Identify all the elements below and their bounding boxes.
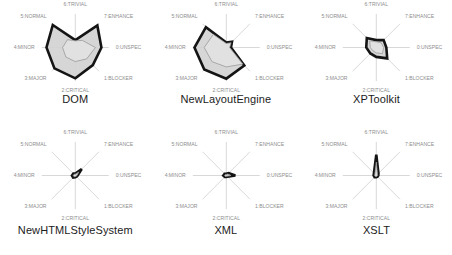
radar-panel-newlayoutengine: 0:UNSPEC1:BLOCKER2:CRITICAL3:MAJOR4:MINO…	[151, 0, 302, 128]
axis-label-3: 3:MAJOR	[175, 202, 197, 208]
axis-label-2: 2:CRITICAL	[62, 87, 90, 93]
axis-label-3: 3:MAJOR	[326, 202, 348, 208]
axis-label-0: 0:UNSPEC	[417, 44, 443, 50]
axis-label-3: 3:MAJOR	[175, 75, 197, 81]
axis-label-7: 7:ENHANCE	[255, 13, 285, 19]
axis-line-3	[202, 175, 226, 199]
axis-label-0: 0:UNSPEC	[116, 172, 142, 178]
axis-line-7	[226, 151, 250, 175]
axis-label-4: 4:MINOR	[164, 44, 185, 50]
axis-line-1	[226, 175, 250, 199]
axis-label-4: 4:MINOR	[14, 44, 35, 50]
axis-line-1	[75, 175, 99, 199]
axis-label-4: 4:MINOR	[14, 172, 35, 178]
axis-line-3	[353, 175, 377, 199]
axis-label-0: 0:UNSPEC	[266, 44, 292, 50]
radar-panel-xptoolkit: 0:UNSPEC1:BLOCKER2:CRITICAL3:MAJOR4:MINO…	[301, 0, 452, 128]
axis-label-3: 3:MAJOR	[326, 75, 348, 81]
axis-label-2: 2:CRITICAL	[212, 214, 240, 220]
axis-line-5	[52, 151, 76, 175]
axis-label-6: 6:TRIVIAL	[214, 1, 238, 7]
axis-label-5: 5:NORMAL	[322, 140, 348, 146]
radar-plot: 0:UNSPEC1:BLOCKER2:CRITICAL3:MAJOR4:MINO…	[301, 0, 452, 128]
axis-label-0: 0:UNSPEC	[266, 172, 292, 178]
radar-plot: 0:UNSPEC1:BLOCKER2:CRITICAL3:MAJOR4:MINO…	[151, 0, 302, 128]
axis-label-6: 6:TRIVIAL	[365, 129, 389, 135]
axis-line-1	[376, 175, 400, 199]
axis-line-7	[376, 151, 400, 175]
axis-label-3: 3:MAJOR	[25, 75, 47, 81]
radar-chart-grid: 0:UNSPEC1:BLOCKER2:CRITICAL3:MAJOR4:MINO…	[0, 0, 452, 255]
axis-label-7: 7:ENHANCE	[255, 140, 285, 146]
axis-label-7: 7:ENHANCE	[405, 140, 435, 146]
radar-plot: 0:UNSPEC1:BLOCKER2:CRITICAL3:MAJOR4:MINO…	[0, 128, 151, 255]
axis-label-2: 2:CRITICAL	[363, 87, 391, 93]
radar-plot: 0:UNSPEC1:BLOCKER2:CRITICAL3:MAJOR4:MINO…	[301, 128, 452, 255]
axis-label-0: 0:UNSPEC	[116, 44, 142, 50]
axis-label-5: 5:NORMAL	[171, 140, 197, 146]
radar-panel-dom: 0:UNSPEC1:BLOCKER2:CRITICAL3:MAJOR4:MINO…	[0, 0, 151, 128]
panel-title: XML	[151, 224, 302, 236]
radar-panel-xslt: 0:UNSPEC1:BLOCKER2:CRITICAL3:MAJOR4:MINO…	[301, 128, 452, 255]
axis-label-3: 3:MAJOR	[25, 202, 47, 208]
axis-label-5: 5:NORMAL	[21, 13, 47, 19]
axis-label-1: 1:BLOCKER	[104, 75, 133, 81]
axis-label-4: 4:MINOR	[315, 172, 336, 178]
axis-label-4: 4:MINOR	[164, 172, 185, 178]
axis-label-5: 5:NORMAL	[171, 13, 197, 19]
axis-label-6: 6:TRIVIAL	[64, 129, 88, 135]
axis-label-0: 0:UNSPEC	[417, 172, 443, 178]
axis-label-6: 6:TRIVIAL	[64, 1, 88, 7]
axis-line-3	[52, 175, 76, 199]
panel-title: XSLT	[301, 224, 452, 236]
axis-label-6: 6:TRIVIAL	[214, 129, 238, 135]
axis-label-1: 1:BLOCKER	[255, 75, 284, 81]
panel-title: XPToolkit	[301, 93, 452, 105]
panel-title: NewLayoutEngine	[151, 93, 302, 105]
radar-plot: 0:UNSPEC1:BLOCKER2:CRITICAL3:MAJOR4:MINO…	[151, 128, 302, 255]
panel-title: NewHTMLStyleSystem	[0, 224, 151, 236]
axis-label-1: 1:BLOCKER	[405, 202, 434, 208]
radar-panel-newhtmlstylesystem: 0:UNSPEC1:BLOCKER2:CRITICAL3:MAJOR4:MINO…	[0, 128, 151, 255]
panel-title: DOM	[0, 93, 151, 105]
axis-label-1: 1:BLOCKER	[405, 75, 434, 81]
axis-label-6: 6:TRIVIAL	[365, 1, 389, 7]
axis-line-5	[353, 151, 377, 175]
axis-label-7: 7:ENHANCE	[104, 13, 134, 19]
axis-label-1: 1:BLOCKER	[255, 202, 284, 208]
axis-label-4: 4:MINOR	[315, 44, 336, 50]
axis-label-5: 5:NORMAL	[322, 13, 348, 19]
axis-label-7: 7:ENHANCE	[405, 13, 435, 19]
axis-label-2: 2:CRITICAL	[62, 214, 90, 220]
axis-label-2: 2:CRITICAL	[363, 214, 391, 220]
radar-plot: 0:UNSPEC1:BLOCKER2:CRITICAL3:MAJOR4:MINO…	[0, 0, 151, 128]
radar-panel-xml: 0:UNSPEC1:BLOCKER2:CRITICAL3:MAJOR4:MINO…	[151, 128, 302, 255]
axis-line-5	[202, 151, 226, 175]
axis-label-7: 7:ENHANCE	[104, 140, 134, 146]
axis-label-5: 5:NORMAL	[21, 140, 47, 146]
axis-label-2: 2:CRITICAL	[212, 87, 240, 93]
axis-label-1: 1:BLOCKER	[104, 202, 133, 208]
